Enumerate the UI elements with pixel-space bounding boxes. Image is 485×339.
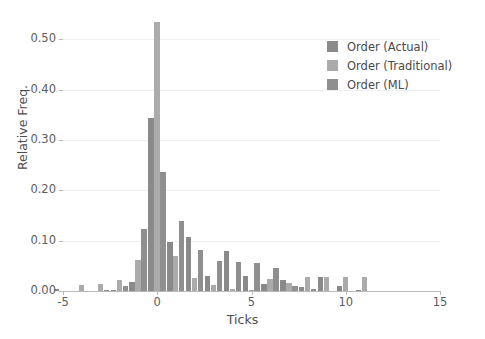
chart-legend: Order (Actual)Order (Traditional)Order (… (327, 38, 452, 95)
bar (236, 262, 241, 291)
legend-item: Order (Actual) (327, 38, 452, 55)
legend-swatch-icon (327, 79, 338, 90)
bar (117, 280, 122, 291)
bar (179, 221, 184, 291)
bar (192, 278, 197, 291)
legend-label: Order (Actual) (347, 40, 428, 54)
y-axis-label: Relative Freq. (15, 58, 30, 198)
bar (205, 276, 210, 291)
y-tick-label: 0.40 (30, 82, 56, 96)
bar (167, 242, 172, 291)
legend-label: Order (ML) (347, 78, 409, 92)
bar (141, 229, 146, 291)
x-tick-label: 0 (154, 295, 161, 309)
bar (135, 260, 140, 291)
y-tick-label: 0.20 (30, 182, 56, 196)
y-tick-label: 0.50 (30, 31, 56, 45)
bar (273, 268, 278, 291)
legend-item: Order (ML) (327, 76, 452, 93)
bar (224, 251, 229, 291)
y-tick-label: 0.10 (30, 233, 56, 247)
y-tick-mark (59, 39, 63, 40)
bar (280, 280, 285, 291)
legend-swatch-icon (327, 41, 338, 52)
bar (267, 279, 272, 291)
bar (318, 277, 323, 291)
bar (173, 256, 178, 291)
histogram-figure: -5051015 0.000.100.200.300.400.50 Ticks … (0, 0, 485, 339)
y-tick-mark (59, 90, 63, 91)
legend-label: Order (Traditional) (347, 59, 452, 73)
x-tick-label: 5 (248, 295, 255, 309)
y-tick-mark (59, 140, 63, 141)
bar (362, 277, 367, 291)
bar (343, 277, 348, 291)
x-tick-label: 15 (433, 295, 448, 309)
y-tick-mark (59, 241, 63, 242)
bar (254, 263, 259, 291)
bar (186, 237, 191, 291)
bar (324, 277, 329, 291)
y-tick-label: 0.00 (30, 283, 56, 297)
bar (198, 250, 203, 291)
legend-swatch-icon (327, 60, 338, 71)
legend-item: Order (Traditional) (327, 57, 452, 74)
x-axis-label: Ticks (0, 312, 485, 327)
bar (286, 283, 291, 291)
bar (148, 118, 153, 291)
x-tick-label: 10 (338, 295, 353, 309)
bar (129, 282, 134, 291)
bar (305, 277, 310, 291)
bar (98, 284, 103, 291)
y-tick-label: 0.30 (30, 132, 56, 146)
y-tick-mark (59, 291, 63, 292)
y-tick-mark (59, 190, 63, 191)
bar (217, 261, 222, 291)
bar (243, 276, 248, 291)
bar (160, 172, 165, 291)
bar (154, 22, 159, 291)
x-tick-label: -5 (57, 295, 68, 309)
